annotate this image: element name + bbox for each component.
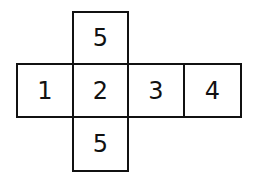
face-center: 2 xyxy=(72,63,129,118)
face-far-right: 4 xyxy=(183,63,242,118)
face-right: 3 xyxy=(127,63,185,118)
face-bottom: 5 xyxy=(72,116,129,172)
face-left: 1 xyxy=(16,63,74,118)
face-top: 5 xyxy=(72,11,129,65)
